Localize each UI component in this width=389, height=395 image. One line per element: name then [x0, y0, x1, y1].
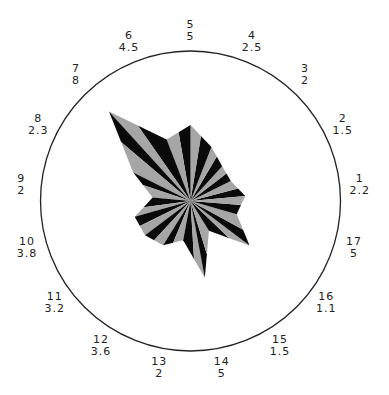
axis-label-9: 92	[17, 173, 25, 197]
axis-label-8: 82.3	[28, 113, 49, 137]
axis-label-1: 12.2	[350, 173, 371, 197]
axis-value: 8	[72, 75, 80, 87]
axis-label-10: 103.8	[17, 236, 38, 260]
axis-value: 2.3	[28, 125, 49, 137]
axis-label-17: 175	[346, 236, 362, 260]
axis-value: 3.2	[45, 303, 66, 315]
axis-value: 5	[346, 248, 362, 260]
axis-value: 3.8	[17, 248, 38, 260]
axis-value: 2.5	[242, 42, 263, 54]
axis-label-12: 123.6	[91, 334, 112, 358]
star-polygon	[109, 112, 250, 278]
axis-value: 2	[301, 75, 309, 87]
axis-value: 1.1	[316, 303, 337, 315]
axis-label-13: 132	[151, 356, 167, 380]
axis-value: 1.5	[332, 125, 353, 137]
axis-value: 2	[151, 368, 167, 380]
axis-label-6: 64.5	[119, 30, 140, 54]
axis-value: 5	[214, 368, 230, 380]
axis-value: 5	[187, 31, 195, 43]
axis-label-4: 42.5	[242, 30, 263, 54]
axis-label-16: 161.1	[316, 291, 337, 315]
axis-label-7: 78	[72, 63, 80, 87]
radar-chart	[0, 0, 389, 395]
axis-value: 2	[17, 185, 25, 197]
axis-label-2: 21.5	[332, 113, 353, 137]
axis-label-5: 55	[187, 19, 195, 43]
axis-value: 2.2	[350, 185, 371, 197]
axis-value: 4.5	[119, 42, 140, 54]
axis-value: 1.5	[270, 346, 291, 358]
axis-label-14: 145	[214, 356, 230, 380]
axis-value: 3.6	[91, 346, 112, 358]
axis-label-3: 32	[301, 63, 309, 87]
axis-label-15: 151.5	[270, 334, 291, 358]
axis-label-11: 113.2	[45, 291, 66, 315]
